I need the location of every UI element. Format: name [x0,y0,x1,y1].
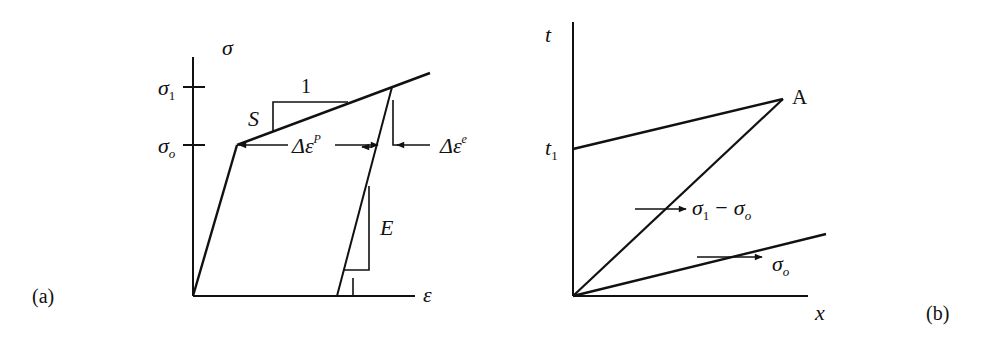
hardening-line [237,73,430,145]
t1-to-A-line [573,99,783,149]
x-axis-label: x [814,300,825,325]
wave2-label: σo [772,251,790,279]
panel-a-stress-strain: σ σ1 σo 1 S E ΔεP Δεe ε (a) [32,35,468,308]
sigma0-label: σo [158,133,176,161]
delta-elastic-label: Δεe [439,132,468,158]
delta-elastic-bracket [393,100,398,145]
origin-to-A-line [573,99,783,296]
delta-plastic-label: ΔεP [291,132,322,158]
sigma1-label: σ1 [158,75,175,103]
unloading-line [337,87,392,296]
t1-label: t1 [545,135,558,163]
epsilon-axis-label: ε [423,282,432,307]
slope-S-run-label: 1 [301,75,311,97]
panel-b-tag: (b) [926,302,949,325]
figure-canvas: σ σ1 σo 1 S E ΔεP Δεe ε (a) t t1 A σ1−σo… [0,0,984,342]
slope-E-label: E [379,215,394,240]
panel-a-tag: (a) [32,285,54,308]
wave1-label: σ1−σo [692,195,752,223]
point-A-label: A [792,85,808,109]
sigma-axis-label: σ [222,35,234,60]
slope-S-label: S [248,106,259,131]
elastic-loading-line [193,145,237,296]
panel-b-wave-diagram: t t1 A σ1−σo σo x (b) [545,22,949,325]
t-axis-label: t [545,22,552,47]
